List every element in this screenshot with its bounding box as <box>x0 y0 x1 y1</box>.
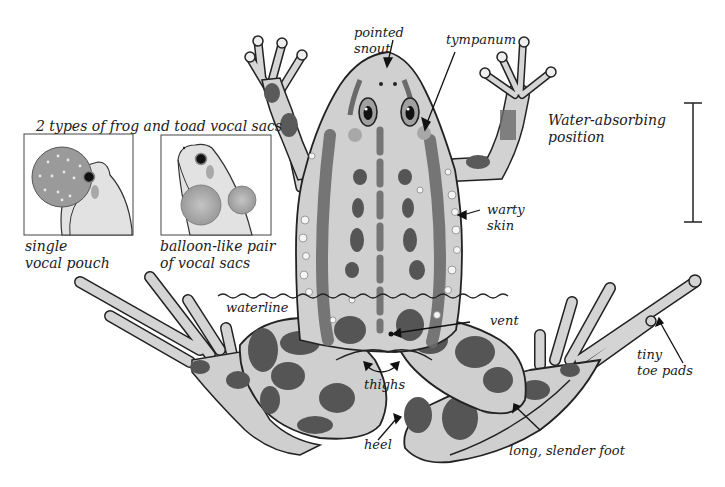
label-waterline: waterline <box>226 300 288 316</box>
label-line: warty <box>487 202 525 218</box>
label-tympanum: tympanum <box>446 32 516 48</box>
label-long-slender-foot: long, slender foot <box>509 443 625 459</box>
label-warty-skin: warty skin <box>487 202 525 234</box>
inset-balloon-pair <box>161 135 271 235</box>
caption-line: balloon-like pair <box>160 238 276 255</box>
right-arm <box>455 37 556 170</box>
inset-single-vocal-pouch <box>24 134 133 235</box>
caption-line: vocal pouch <box>25 255 110 272</box>
label-pointed-snout: pointed snout <box>354 25 404 57</box>
label-vent: vent <box>490 313 519 329</box>
label-tiny-toe-pads: tiny toe pads <box>637 347 693 379</box>
caption-line: of vocal sacs <box>160 255 276 272</box>
label-line: snout <box>354 41 404 57</box>
label-thighs: thighs <box>364 377 405 393</box>
label-line: pointed <box>354 25 404 41</box>
label-line: Water-absorbing <box>548 112 666 129</box>
caption-single-vocal-pouch: single vocal pouch <box>25 238 110 272</box>
frog-diagram: 2 types of frog and toad vocal sacs sing… <box>0 0 725 487</box>
label-line: tiny <box>637 347 693 363</box>
label-line: position <box>548 129 666 146</box>
label-line: skin <box>487 218 525 234</box>
label-heel: heel <box>364 437 392 453</box>
label-line: toe pads <box>637 363 693 379</box>
caption-line: single <box>25 238 110 255</box>
position-bracket <box>684 103 702 222</box>
label-water-absorbing-position: Water-absorbing position <box>548 112 666 146</box>
inset-title: 2 types of frog and toad vocal sacs <box>36 118 282 135</box>
caption-balloon-pair: balloon-like pair of vocal sacs <box>160 238 276 272</box>
